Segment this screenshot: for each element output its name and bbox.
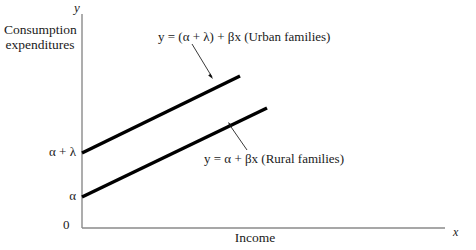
leader-rural bbox=[228, 122, 247, 150]
annotation-rural-equation: y = α + βx (Rural families) bbox=[204, 152, 344, 167]
series-line-urban bbox=[82, 76, 240, 153]
x-axis-symbol: x bbox=[453, 226, 458, 239]
y-axis-title-line2: expenditures bbox=[4, 37, 76, 52]
leader-urban bbox=[192, 44, 213, 79]
origin-label: 0 bbox=[63, 218, 70, 233]
x-axis-title: Income bbox=[205, 230, 305, 245]
y-axis-title: Consumption expenditures bbox=[4, 22, 76, 52]
annotation-urban-equation: y = (α + λ) + βx (Urban families) bbox=[158, 30, 330, 45]
consumption-income-figure: y x 0 Consumption expenditures Income α … bbox=[0, 0, 476, 250]
y-axis-title-line1: Consumption bbox=[4, 22, 76, 37]
y-axis-symbol: y bbox=[74, 1, 80, 16]
y-tick-label-alpha: α bbox=[28, 189, 76, 204]
y-tick-label-alpha-plus-lambda: α + λ bbox=[28, 145, 76, 160]
